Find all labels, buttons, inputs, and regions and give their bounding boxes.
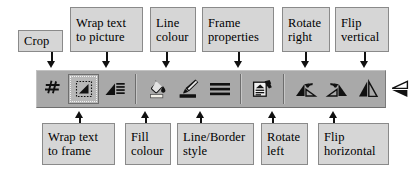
callout-frame-properties: Frame properties [202,7,274,52]
toolbar-group-crop-wrap [37,71,130,107]
fill-colour-button[interactable] [142,74,173,104]
callout-fill-colour: Fill colour [125,123,171,165]
paint-bucket-icon [147,78,169,100]
toolbar-separator [283,74,285,104]
rotate-right-icon [325,79,349,99]
flip-vertical-button[interactable] [383,74,413,104]
callout-wrap-text-to-picture: Wrap text to picture [70,7,143,52]
crop-icon [43,79,63,99]
picture-frame-toolbar [36,70,386,108]
toolbar-separator [240,74,242,104]
callout-wrap-text-to-frame: Wrap text to frame [42,123,115,165]
frame-properties-icon [252,79,274,99]
arrowhead-wrap-text-to-picture [102,61,110,68]
callout-line-colour: Line colour [150,7,196,52]
callout-flip-vertical: Flip vertical [335,7,389,52]
wrap-text-frame-icon [75,80,93,98]
arrowhead-crop [47,61,55,68]
callout-line-border-style: Line/Border style [177,123,254,165]
flip-horizontal-button[interactable] [352,74,383,104]
arrowhead-frame-properties [234,61,242,68]
wrap-text-to-frame-button[interactable] [68,74,99,104]
wrap-text-to-picture-button[interactable] [99,74,130,104]
rotate-left-button[interactable] [290,74,321,104]
arrowhead-line-colour [162,61,170,68]
arrowhead-rotate-right [301,61,309,68]
line-border-style-button[interactable] [204,74,235,104]
rotate-left-icon [294,79,318,99]
paint-brush-icon [177,78,201,100]
callout-rotate-left: Rotate left [261,123,308,165]
callout-flip-horizontal: Flip horizontal [318,123,389,165]
frame-properties-button[interactable] [247,74,278,104]
line-style-icon [209,80,231,98]
toolbar-group-colour-style [142,71,235,107]
callout-crop: Crop [18,30,63,52]
wrap-text-picture-icon [104,80,126,98]
callout-rotate-right: Rotate right [282,7,330,52]
line-colour-button[interactable] [173,74,204,104]
flip-horizontal-icon [357,79,379,99]
toolbar-separator [135,74,137,104]
toolbar-group-transform [290,71,413,107]
rotate-right-button[interactable] [321,74,352,104]
crop-button[interactable] [37,74,68,104]
flip-vertical-icon [388,79,410,99]
arrowhead-flip-vertical [360,61,368,68]
toolbar-group-frame [247,71,278,107]
